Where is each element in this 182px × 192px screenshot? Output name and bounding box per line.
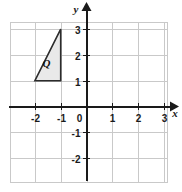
x-tick-label: -1: [57, 113, 66, 124]
x-tick-label: 3: [162, 113, 168, 124]
tick-labels: -2-10123321-1-2: [31, 25, 168, 165]
x-tick-label: 1: [110, 113, 116, 124]
shape-triangle-q: [35, 29, 61, 81]
y-tick-label: -2: [72, 154, 81, 165]
y-tick-label: -1: [72, 128, 81, 139]
y-axis-label: y: [72, 3, 79, 15]
x-tick-label: -2: [31, 113, 40, 124]
y-tick-label: 1: [75, 77, 81, 88]
x-tick-label: 2: [136, 113, 142, 124]
x-axis-label: x: [171, 107, 178, 119]
coordinate-plane-figure: Q -2-10123321-1-2 x y: [0, 0, 182, 192]
origin-tick-label: 0: [77, 113, 83, 124]
y-tick-label: 2: [75, 51, 81, 62]
shape-label-q: Q: [43, 57, 51, 69]
axes: [9, 2, 179, 181]
coordinate-plane-svg: Q -2-10123321-1-2 x y: [0, 0, 182, 192]
shape-group: Q: [35, 29, 61, 81]
y-axis-arrow-icon: [82, 2, 92, 11]
y-tick-label: 3: [75, 25, 81, 36]
